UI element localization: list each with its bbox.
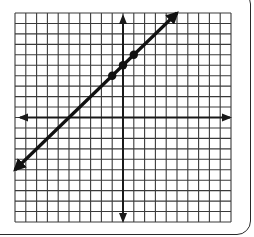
plotted-line	[15, 13, 177, 170]
data-point	[130, 51, 138, 59]
data-point	[119, 61, 127, 69]
line-y-equals-x-plus-5	[15, 13, 177, 170]
data-point	[108, 72, 116, 80]
coordinate-plane	[0, 0, 254, 237]
